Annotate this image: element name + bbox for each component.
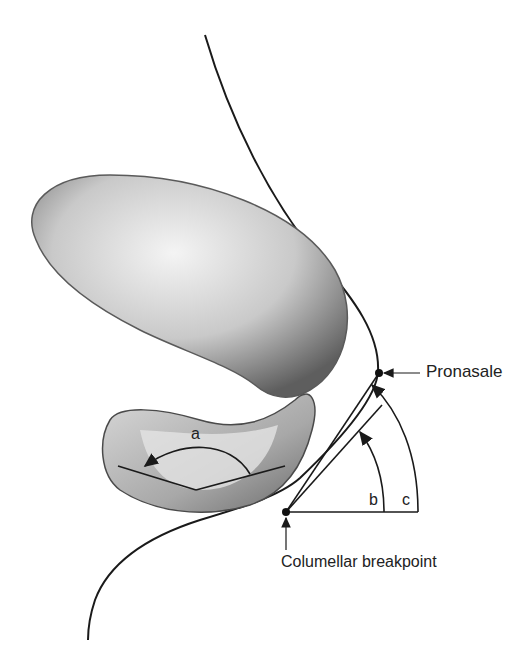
nose-profile-diagram [0, 0, 527, 652]
angle-b-label: b [369, 491, 378, 509]
angle-a-label: a [191, 425, 200, 443]
angle-c-arc [372, 385, 418, 512]
angle-c-label: c [402, 491, 410, 509]
columellar-breakpoint-point [282, 508, 290, 516]
pronasale-point [375, 369, 383, 377]
alar-lobule [32, 175, 348, 397]
pronasale-label: Pronasale [426, 362, 503, 382]
columellar-breakpoint-label: Columellar breakpoint [281, 553, 437, 571]
